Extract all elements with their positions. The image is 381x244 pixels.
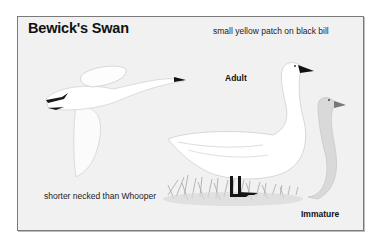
immature-label: Immature [301,209,339,219]
flying-swan [46,66,186,177]
neck-caption: shorter necked than Whooper [44,191,156,201]
bill-caption: small yellow patch on black bill [213,26,329,36]
swan-plate: Bewick's Swan small yellow patch on blac… [17,16,364,231]
immature-swan [308,98,346,199]
adult-label: Adult [225,73,247,83]
plate-title: Bewick's Swan [28,20,129,36]
